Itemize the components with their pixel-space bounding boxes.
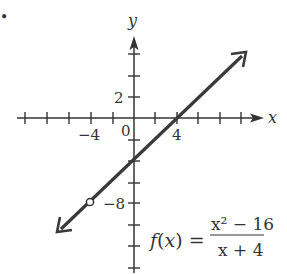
function-graph: • x −4 4: [0, 0, 287, 274]
function-formula: f(x) = x² − 16 x + 4: [148, 214, 274, 260]
origin-label: 0: [121, 122, 131, 140]
x-axis: x −4 4: [17, 108, 277, 144]
x-axis-label: x: [268, 108, 277, 127]
open-circle-hole: [86, 198, 93, 205]
x-tick-label-4: 4: [172, 126, 182, 144]
formula-denominator: x + 4: [218, 240, 263, 260]
formula-lhs: f(x) =: [148, 229, 205, 251]
y-tick-label-neg8: −8: [103, 195, 125, 213]
x-tick-label-neg4: −4: [78, 126, 100, 144]
y-axis-label: y: [127, 11, 138, 30]
y-axis: y 2 −8 0: [103, 11, 140, 273]
bullet-mark: •: [0, 9, 8, 25]
formula-numerator: x² − 16: [211, 214, 274, 234]
y-tick-label-2: 2: [114, 89, 124, 107]
